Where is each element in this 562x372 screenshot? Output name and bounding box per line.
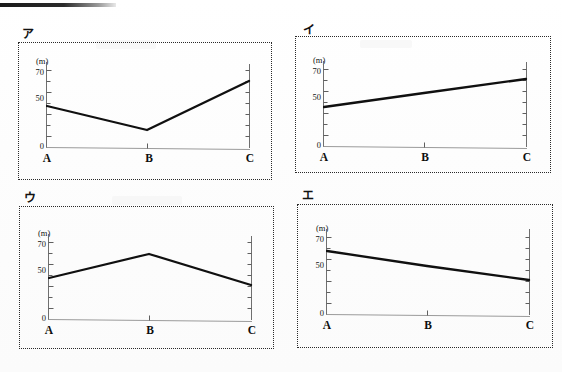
panel-label-u: ウ bbox=[24, 192, 36, 204]
x-tick-C-a: C bbox=[241, 153, 259, 165]
x-tick-C-u: C bbox=[243, 325, 261, 337]
panel-label-i: イ bbox=[303, 24, 315, 36]
x-tick-B-e: B bbox=[419, 320, 437, 332]
x-tick-A-a: A bbox=[38, 153, 56, 165]
x-tick-B-i: B bbox=[416, 152, 434, 164]
chart-plot-i bbox=[323, 61, 533, 151]
x-tick-A-u: A bbox=[40, 325, 58, 337]
y-tick-0-u: 0 bbox=[30, 314, 46, 323]
y-tick-50-u: 50 bbox=[30, 266, 46, 275]
y-tick-70-e: 70 bbox=[308, 235, 324, 244]
panel-e: エ (m) 70 50 0 A B C bbox=[281, 186, 562, 372]
x-tick-C-e: C bbox=[521, 320, 539, 332]
chart-plot-a bbox=[46, 62, 256, 152]
x-tick-B-a: B bbox=[140, 153, 158, 165]
panel-i: イ (m) 70 50 0 A B C bbox=[281, 0, 562, 186]
x-tick-B-u: B bbox=[141, 325, 159, 337]
x-tick-A-e: A bbox=[318, 320, 336, 332]
y-tick-50-e: 50 bbox=[308, 261, 324, 270]
y-tick-50-a: 50 bbox=[28, 94, 44, 103]
x-tick-C-i: C bbox=[518, 152, 536, 164]
y-tick-50-i: 50 bbox=[305, 93, 321, 102]
y-tick-70-i: 70 bbox=[305, 67, 321, 76]
y-tick-0-e: 0 bbox=[308, 309, 324, 318]
x-tick-A-i: A bbox=[315, 152, 333, 164]
y-tick-0-a: 0 bbox=[28, 142, 44, 151]
y-tick-70-a: 70 bbox=[28, 68, 44, 77]
y-tick-70-u: 70 bbox=[30, 240, 46, 249]
y-tick-0-i: 0 bbox=[305, 141, 321, 150]
panel-u: ウ (m) 70 50 0 A B C bbox=[0, 186, 281, 372]
panel-label-e: エ bbox=[302, 190, 314, 202]
panel-label-a: ア bbox=[22, 28, 34, 40]
chart-plot-u bbox=[48, 234, 258, 324]
chart-plot-e bbox=[326, 229, 536, 319]
panel-a: ア (m) 70 50 0 A B C bbox=[0, 0, 281, 186]
